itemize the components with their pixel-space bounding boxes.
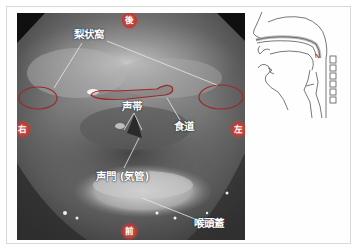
direction-anterior-badge: 前 — [122, 224, 137, 239]
label-vocal-cords: 声帯 — [122, 101, 142, 112]
head-neck-sagittal-diagram — [250, 10, 350, 120]
endoscope-image: 梨状窩 声帯 食道 声門 (気管) 喉頭蓋 後 前 右 左 — [17, 13, 245, 240]
endoscope-photo — [17, 13, 245, 240]
direction-posterior-badge: 後 — [122, 13, 137, 28]
direction-left-badge: 左 — [231, 122, 245, 137]
label-glottis: 声門 (気管) — [96, 171, 149, 182]
label-esophagus: 食道 — [174, 121, 194, 132]
sagittal-schematic — [250, 10, 350, 120]
label-piriform-sinus: 梨状窩 — [74, 29, 104, 40]
label-epiglottis: 喉頭蓋 — [194, 218, 224, 229]
